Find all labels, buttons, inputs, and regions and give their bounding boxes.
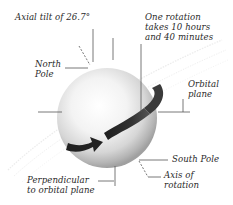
perpendicular-label-line-1: Perpendicular bbox=[27, 175, 89, 186]
orbital-plane-label-line-2: plane bbox=[188, 89, 212, 100]
axis-south-dashed bbox=[139, 161, 148, 177]
orbital-plane-label-line-1: Orbital bbox=[188, 79, 219, 90]
rotation-label-line-1: One rotation bbox=[145, 12, 201, 23]
north-pole-label-line-2: Pole bbox=[35, 69, 54, 80]
rotation-label-line-3: and 40 minutes bbox=[145, 32, 213, 43]
axis-north-dashed bbox=[79, 46, 90, 65]
diagram-canvas: Axial tilt of 26.7° One rotation takes 1… bbox=[0, 0, 233, 205]
axis-label-line-2: rotation bbox=[164, 180, 199, 191]
axis-label-line-1: Axis of bbox=[164, 170, 194, 181]
north-pole-label-line-1: North bbox=[35, 59, 61, 70]
perpendicular-label-line-2: to orbital plane bbox=[27, 185, 95, 196]
south-pole-label: South Pole bbox=[172, 154, 219, 165]
rotation-label-line-2: takes 10 hours bbox=[145, 22, 210, 33]
axial-tilt-label: Axial tilt of 26.7° bbox=[15, 12, 90, 23]
